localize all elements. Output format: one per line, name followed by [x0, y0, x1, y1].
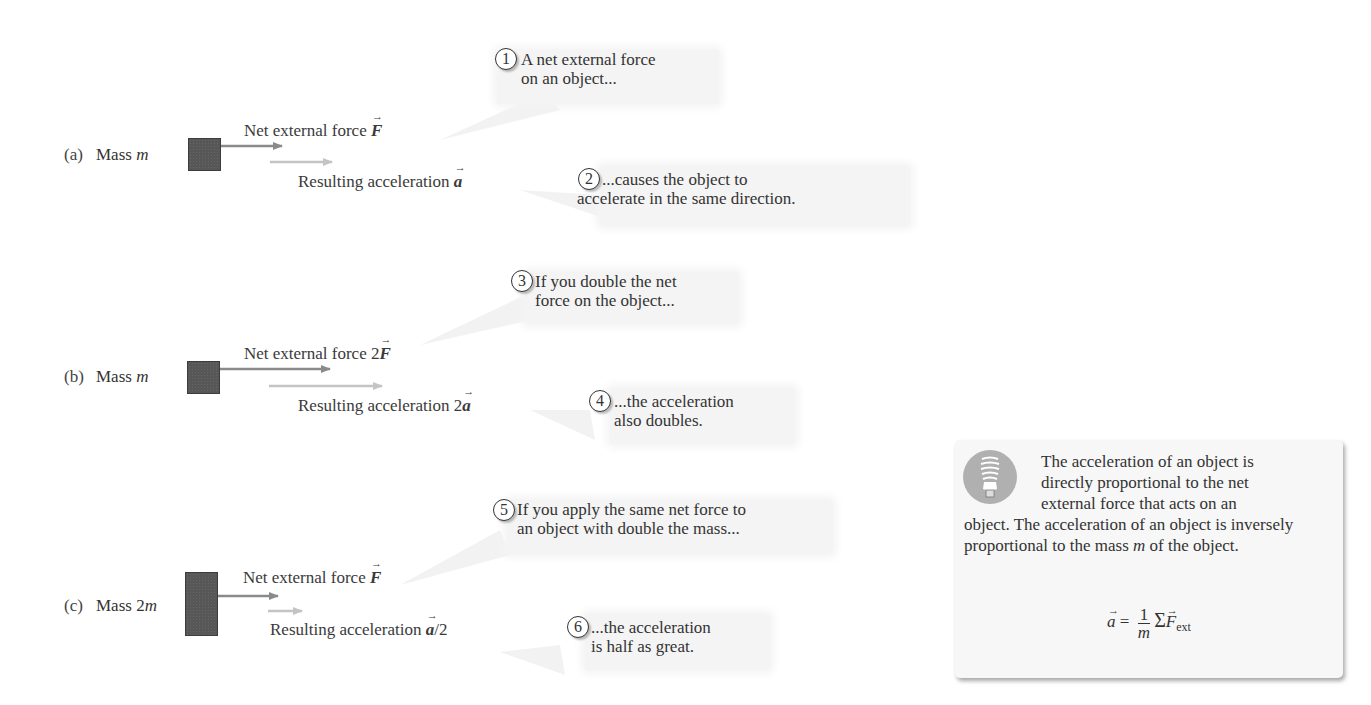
callout-5-pointer — [400, 530, 510, 585]
callout-3-line2: force on the object... — [535, 291, 675, 310]
accel-label-a: Resulting acceleration a — [298, 172, 462, 192]
mass-block-a — [188, 138, 221, 171]
callout-2-line2: accelerate in the same direction. — [577, 189, 796, 208]
step-number-4: 4 — [589, 390, 611, 412]
step-number-6: 6 — [567, 616, 589, 638]
callout-3: 3 If you double the net force on the obj… — [525, 272, 739, 324]
accel-label-c: Resulting acceleration a/2 — [270, 620, 448, 640]
step-number-5: 5 — [493, 499, 515, 521]
callout-1-line2: on an object... — [521, 69, 617, 88]
mass-block-c — [185, 572, 218, 636]
mass-label-c: Mass 2m — [96, 596, 157, 616]
callout-6-pointer — [500, 645, 565, 675]
mass-block-b — [187, 361, 220, 394]
callout-5-line2: an object with double the mass... — [517, 519, 740, 538]
callout-6-line1: ...the acceleration — [591, 618, 711, 637]
callout-5: 5 If you apply the same net force to an … — [507, 500, 833, 554]
summary-text-1: The acceleration of an object is directl… — [1041, 451, 1341, 514]
mass-label-b: Mass m — [96, 367, 148, 387]
mass-label-a: Mass m — [96, 145, 148, 165]
callout-4: 4 ...the acceleration also doubles. — [610, 388, 795, 444]
panel-label-b: (b) — [64, 367, 84, 387]
callout-3-pointer — [420, 295, 540, 345]
panel-label-c: (c) — [64, 596, 83, 616]
callout-1-line1: A net external force — [521, 50, 656, 69]
force-label-a: Net external force F — [244, 121, 382, 141]
accel-label-b: Resulting acceleration 2a — [298, 396, 471, 416]
callout-1: 1 A net external force on an object... — [497, 50, 719, 104]
force-label-c: Net external force F — [243, 568, 381, 588]
callout-5-line1: If you apply the same net force to — [517, 500, 746, 519]
callout-6-line2: is half as great. — [591, 637, 694, 656]
step-number-1: 1 — [495, 48, 517, 70]
callout-6: 6 ...the acceleration is half as great. — [585, 614, 770, 670]
callout-4-pointer — [530, 410, 595, 440]
callout-2: 2 ...causes the object to accelerate in … — [600, 166, 910, 226]
callout-2-line1: ...causes the object to — [602, 170, 747, 189]
callout-3-line1: If you double the net — [535, 272, 677, 291]
force-label-b: Net external force 2F — [244, 344, 391, 364]
summary-box: The acceleration of an object is directl… — [955, 440, 1343, 678]
callout-4-line2: also doubles. — [614, 411, 703, 430]
callout-4-line1: ...the acceleration — [614, 392, 734, 411]
step-number-2: 2 — [578, 168, 600, 190]
newtons-second-law-formula: a = 1mΣFext — [955, 606, 1343, 641]
step-number-3: 3 — [511, 270, 533, 292]
lightbulb-icon — [963, 450, 1017, 504]
summary-text-2: object. The acceleration of an object is… — [964, 514, 1334, 556]
panel-label-a: (a) — [64, 145, 83, 165]
